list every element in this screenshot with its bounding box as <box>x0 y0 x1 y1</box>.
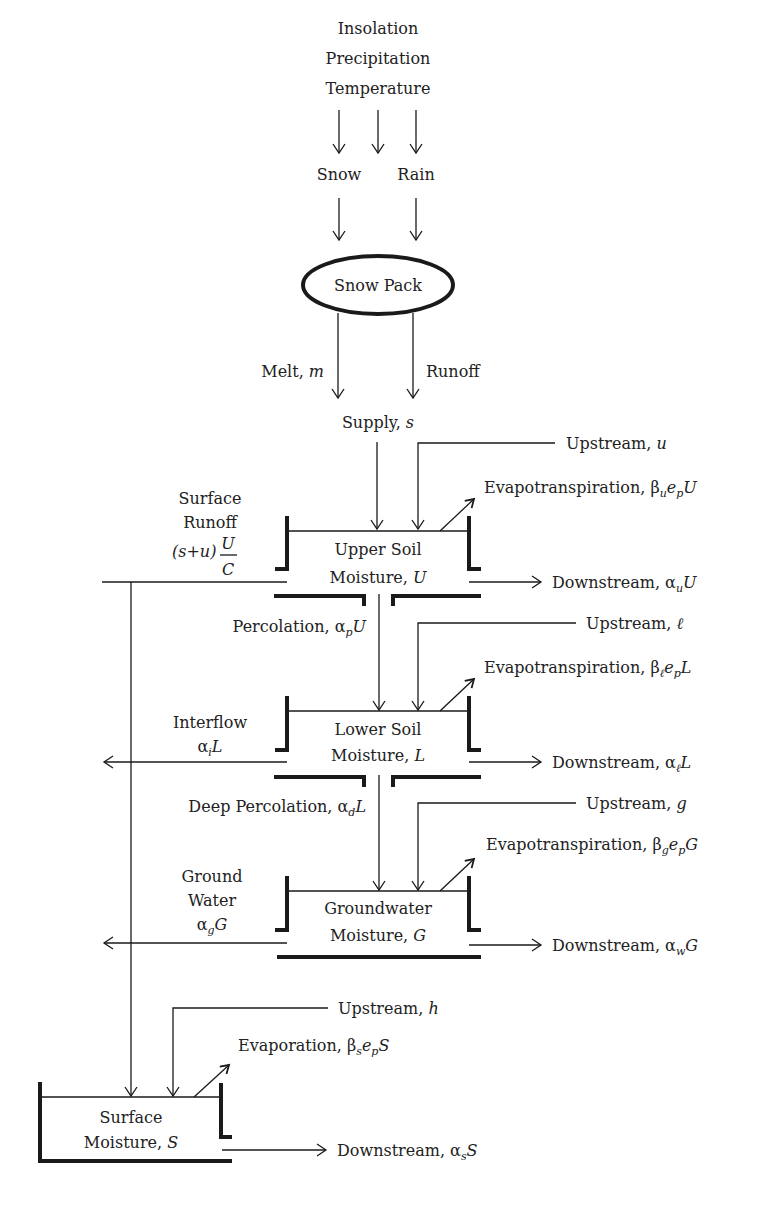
groundwater-reservoir: Groundwater Moisture, G <box>104 876 541 957</box>
surface-reservoir: Surface Moisture, S <box>40 1082 326 1161</box>
hydrology-diagram: Insolation Precipitation Temperature Sno… <box>0 0 774 1208</box>
interflow-formula: αiL <box>198 737 223 759</box>
lower-soil-reservoir: Lower Soil Moisture, L <box>104 696 541 787</box>
surface-runoff-line1: Surface <box>179 489 242 508</box>
lower-soil-line2: Moisture, L <box>331 746 425 765</box>
upper-soil-line1: Upper Soil <box>335 540 422 559</box>
percolation-label: Percolation, αpU <box>233 617 367 639</box>
downstream-g-label: Downstream, αwG <box>552 936 698 958</box>
upstream-l-label: Upstream, ℓ <box>586 614 683 633</box>
evap-g-label: Evapotranspiration, βgepG <box>486 835 698 857</box>
upstream-u-label: Upstream, u <box>566 434 667 453</box>
surface-runoff-formula: (s+u) <box>172 542 216 561</box>
surface-line2: Moisture, S <box>84 1133 178 1152</box>
downstream-s-label: Downstream, αsS <box>337 1141 478 1163</box>
evap-u-label: Evapotranspiration, βuepU <box>484 478 697 500</box>
fraction-numerator: U <box>221 534 235 553</box>
evap-s-arrow-icon <box>194 1065 229 1097</box>
rain-label: Rain <box>397 165 434 184</box>
ground-water-line2: Water <box>188 891 236 910</box>
evaporation-s-label: Evaporation, βsepS <box>238 1036 389 1058</box>
melt-label: Melt, m <box>261 362 324 381</box>
runoff-label: Runoff <box>426 362 481 381</box>
climate-inputs: Insolation Precipitation Temperature <box>326 19 431 98</box>
interflow-label: Interflow <box>173 713 247 732</box>
ground-water-formula: αgG <box>197 915 228 937</box>
deep-percolation-label: Deep Percolation, αdL <box>188 797 366 819</box>
evap-l-label: Evapotranspiration, βℓepL <box>484 658 691 680</box>
snow-pack-label: Snow Pack <box>334 276 422 295</box>
input-insolation: Insolation <box>338 19 419 38</box>
upper-soil-line2: Moisture, U <box>330 568 427 587</box>
surface-line1: Surface <box>100 1108 163 1127</box>
snow-pack-node: Snow Pack <box>303 256 453 314</box>
upstream-h-label: Upstream, h <box>338 999 439 1018</box>
snow-label: Snow <box>317 165 362 184</box>
downstream-l-label: Downstream, αℓL <box>552 753 691 775</box>
downstream-u-label: Downstream, αuU <box>552 573 697 595</box>
lower-soil-line1: Lower Soil <box>335 720 422 739</box>
input-precipitation: Precipitation <box>326 49 431 68</box>
supply-label: Supply, s <box>342 413 414 432</box>
surface-runoff-line2: Runoff <box>183 513 238 532</box>
fraction-denominator: C <box>222 560 234 579</box>
ground-water-line1: Ground <box>182 867 243 886</box>
upper-soil-reservoir: Upper Soil Moisture, U <box>102 516 541 606</box>
groundwater-line1: Groundwater <box>324 899 432 918</box>
upstream-g-label: Upstream, g <box>586 794 687 813</box>
groundwater-line2: Moisture, G <box>330 926 426 945</box>
input-temperature: Temperature <box>326 79 431 98</box>
